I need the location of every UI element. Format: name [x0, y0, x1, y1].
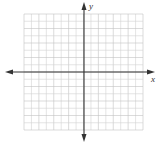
y-axis-down-arrow-icon: [82, 134, 87, 142]
x-axis: [5, 70, 155, 75]
x-axis-label: x: [150, 74, 155, 84]
y-axis-label: y: [88, 1, 93, 11]
coordinate-plane: y x: [0, 0, 160, 143]
y-axis-up-arrow-icon: [82, 2, 87, 10]
x-axis-left-arrow-icon: [5, 70, 13, 75]
